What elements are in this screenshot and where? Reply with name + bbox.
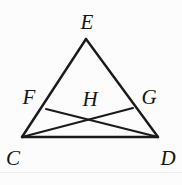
vertex-label-D: D — [160, 148, 175, 169]
scan-edge-artifact — [0, 172, 182, 173]
vertex-label-H: H — [82, 89, 97, 110]
vertex-label-F: F — [23, 87, 36, 108]
vertex-label-G: G — [141, 87, 156, 108]
vertex-label-C: C — [6, 148, 20, 169]
cevians — [22, 108, 158, 137]
vertex-label-E: E — [81, 12, 94, 33]
geometry-figure: E C D F G H — [0, 0, 182, 185]
